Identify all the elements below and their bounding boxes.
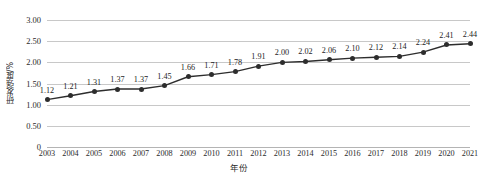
data-point-label: 2.00 [275,48,289,57]
x-tick-label: 2005 [86,149,102,159]
x-tick-label: 2014 [297,149,313,159]
data-point-label: 2.14 [392,42,406,51]
x-tick-label: 2011 [227,149,243,159]
data-point-label: 1.66 [181,63,195,72]
data-point-marker [115,87,120,92]
data-point-label: 1.71 [204,61,218,70]
x-tick-label: 2021 [462,149,478,159]
x-tick-label: 2010 [203,149,219,159]
y-tick-label: 1.00 [26,100,41,109]
x-tick-label: 2009 [180,149,196,159]
data-point-marker [374,55,379,60]
y-axis-tick-labels: 00.501.001.502.002.503.00 [0,20,44,147]
data-point-label: 2.10 [345,44,359,53]
data-point-label: 1.21 [63,82,77,91]
x-tick-label: 2019 [415,149,431,159]
data-point-marker [421,50,426,55]
data-point-label: 2.44 [463,30,477,39]
chart-container: 研发强度/% 00.501.001.502.002.503.00 1.121.2… [0,0,478,180]
data-point-marker [397,54,402,59]
x-axis-tick-labels: 2003200420052006200720082009201020112012… [47,149,470,161]
y-tick-label: 2.50 [26,37,41,46]
data-point-marker [350,56,355,61]
data-point-label: 1.45 [157,72,171,81]
gridline [47,147,470,148]
data-point-marker [280,60,285,65]
data-point-label: 2.02 [298,47,312,56]
data-point-marker [92,89,97,94]
x-tick-label: 2013 [274,149,290,159]
y-tick-label: 1.50 [26,79,41,88]
data-point-marker [139,87,144,92]
x-axis-title: 年份 [0,163,478,173]
data-point-marker [468,41,473,46]
x-tick-label: 2007 [133,149,149,159]
data-point-label: 2.06 [322,46,336,55]
data-point-marker [256,64,261,69]
plot-area: 1.121.211.311.371.371.451.661.711.781.91… [47,20,470,147]
x-tick-label: 2017 [368,149,384,159]
x-tick-label: 2004 [62,149,78,159]
data-point-marker [327,57,332,62]
data-point-label: 2.12 [369,43,383,52]
x-tick-label: 2015 [321,149,337,159]
data-point-label: 2.41 [439,31,453,40]
x-tick-label: 2006 [109,149,125,159]
data-point-marker [303,59,308,64]
x-tick-label: 2012 [250,149,266,159]
x-tick-label: 2008 [156,149,172,159]
data-point-label: 1.12 [40,86,54,95]
data-point-marker [186,74,191,79]
data-point-label: 1.37 [134,75,148,84]
data-point-label: 1.78 [228,58,242,67]
data-point-label: 1.91 [251,52,265,61]
y-tick-label: 2.00 [26,58,41,67]
y-tick-label: 3.00 [26,16,41,25]
data-point-label: 1.31 [87,78,101,87]
data-point-label: 1.37 [110,75,124,84]
x-tick-label: 2018 [391,149,407,159]
x-tick-label: 2020 [438,149,454,159]
data-point-marker [233,69,238,74]
data-point-marker [45,97,50,102]
y-tick-label: 0.50 [26,121,41,130]
data-point-label: 2.24 [416,38,430,47]
x-tick-label: 2003 [39,149,55,159]
x-tick-label: 2016 [344,149,360,159]
